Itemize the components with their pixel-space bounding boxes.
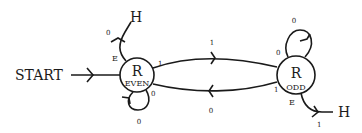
label-even-self: 0 (137, 118, 141, 126)
state-even-sub: EVEN (125, 79, 149, 88)
state-diagram: START R EVEN R ODD 1 1 0 1 0 0 0 0 0 E 1… (0, 0, 362, 133)
start-label: START (15, 67, 64, 83)
edge-even-to-odd (153, 59, 277, 69)
read-odd-halt: E (289, 98, 295, 107)
label-odd-halt: 1 (317, 121, 321, 129)
read-even-self: 0 (151, 90, 155, 98)
edge-odd-to-even (153, 82, 277, 91)
halt-label-odd: H (338, 104, 350, 120)
label-even-halt: 0 (106, 29, 110, 37)
edge-odd-self-loop (286, 30, 312, 57)
state-even-name: R (132, 63, 143, 79)
read-odd-self: 0 (276, 49, 280, 57)
state-odd-name: R (291, 65, 302, 81)
edge-even-halt (120, 22, 131, 61)
label-odd-self: 0 (292, 17, 296, 25)
label-odd-to-even: 0 (209, 107, 213, 115)
read-even-halt: E (112, 54, 118, 63)
read-odd-to-even: 1 (274, 86, 278, 94)
arrowhead-even-halt-icon (111, 38, 125, 42)
label-even-to-odd: 1 (210, 39, 214, 47)
read-even-to-odd: 1 (158, 60, 162, 68)
arrowhead-odd-self-icon (300, 34, 310, 41)
state-odd-sub: ODD (286, 83, 305, 92)
halt-label-even: H (130, 9, 142, 25)
edge-even-self-loop (128, 90, 148, 110)
